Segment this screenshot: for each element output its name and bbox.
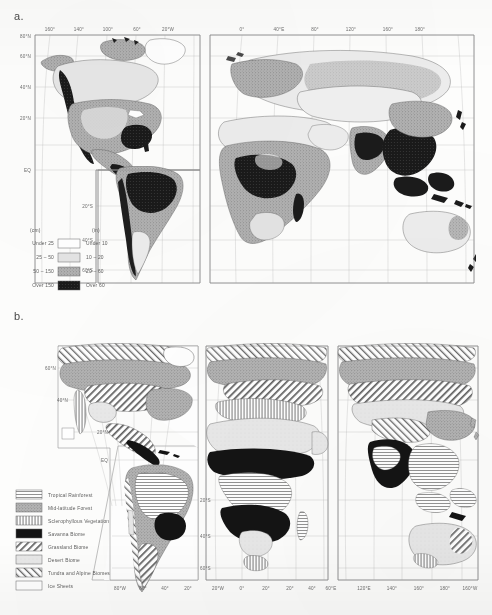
legend-swatch — [58, 253, 80, 262]
legend-swatch — [58, 239, 80, 248]
legend-imperial-label: 10 – 20 — [86, 255, 104, 260]
map-b-figure: 60°N 40°N 20°N EQ 20°S 40°S 60°S 80°W 60… — [0, 328, 492, 610]
lat-label: 20°N — [20, 116, 31, 121]
lon-label: 80°W — [114, 586, 127, 591]
lon-label: 20°W — [212, 586, 225, 591]
lon-label: 60°E — [326, 586, 337, 591]
lon-label: 160° — [383, 27, 393, 32]
lon-label: 120° — [346, 27, 356, 32]
map-b-svg: 60°N 40°N 20°N EQ 20°S 40°S 60°S 80°W 60… — [0, 328, 492, 610]
legend-label: Tropical Rainforest — [48, 493, 93, 498]
legend-metric-label: Under 25 — [32, 241, 54, 246]
legend-row: Tropical Rainforest — [16, 490, 93, 499]
map-b-inset-box — [62, 428, 74, 439]
map-a-figure: 160° 140° 100° 60° 20°W 0° 40°E 80° 120°… — [0, 18, 492, 308]
lon-label: 60° — [133, 27, 141, 32]
lon-label: 40°E — [274, 27, 285, 32]
legend-row: 50 – 150 20 – 60 — [33, 267, 103, 276]
legend-label: Mid-latitude Forest — [48, 506, 93, 511]
legend-row: Under 25 Under 10 — [32, 239, 108, 248]
legend-label: Grassland Biome — [48, 545, 89, 550]
lon-label: 180° — [440, 586, 450, 591]
map-a-lat-labels-south: 20°S 40°S 60°S — [82, 204, 93, 273]
legend-row: Savanna Biome — [16, 529, 85, 538]
lat-label: 20°S — [82, 204, 93, 209]
map-b-legend: Tropical Rainforest Mid-latitude Forest … — [16, 490, 110, 590]
legend-label: Tundra and Alpine Biomes — [48, 571, 110, 576]
lon-label: 40° — [161, 586, 169, 591]
legend-metric-label: Over 150 — [32, 283, 54, 288]
map-b-western-lobe — [58, 344, 198, 593]
legend-label: Sclerophyllous Vegetation — [48, 519, 109, 524]
map-a-svg: 160° 140° 100° 60° 20°W 0° 40°E 80° 120°… — [0, 18, 492, 308]
legend-swatch — [16, 503, 42, 512]
lon-label: 140° — [74, 27, 84, 32]
legend-swatch — [16, 555, 42, 564]
lon-label: 20° — [184, 586, 192, 591]
legend-swatch — [16, 516, 42, 525]
lon-label: 180° — [415, 27, 425, 32]
lat-label: 60°N — [20, 54, 31, 59]
lat-label: EQ — [24, 168, 31, 173]
legend-label: Savanna Biome — [48, 532, 85, 537]
legend-label: Desert Biome — [48, 558, 80, 563]
lon-label: 160° — [414, 586, 424, 591]
lat-label: 40°S — [200, 534, 211, 539]
figure-page: a. — [0, 0, 492, 615]
legend-label: Ice Sheets — [48, 584, 73, 589]
lat-label: 40°N — [57, 398, 68, 403]
lat-label: 60°N — [45, 366, 56, 371]
lon-label: 0° — [240, 586, 245, 591]
map-a-lon-labels-east: 0° 40°E 80° 120° 160° 180° — [240, 27, 426, 32]
legend-swatch — [16, 568, 42, 577]
lon-label: 140° — [387, 586, 397, 591]
lon-label: 20° — [286, 586, 294, 591]
legend-imperial-label: Under 10 — [86, 241, 108, 246]
lon-label: 40° — [308, 586, 316, 591]
legend-swatch — [16, 490, 42, 499]
lon-label: 20°W — [162, 27, 175, 32]
lon-label: 20° — [262, 586, 270, 591]
lon-label: 60° — [139, 586, 147, 591]
legend-header-imperial: (in) — [92, 228, 100, 233]
legend-row: Sclerophyllous Vegetation — [16, 516, 109, 525]
map-a-south-america-lobe — [98, 166, 200, 283]
lon-label: 80° — [311, 27, 319, 32]
legend-row: Desert Biome — [16, 555, 80, 564]
legend-row: Grassland Biome — [16, 542, 89, 551]
equator-label: EQ — [101, 458, 108, 463]
lon-label: 160°W — [463, 586, 478, 591]
legend-swatch — [58, 267, 80, 276]
lat-label: 40°N — [20, 85, 31, 90]
map-b-lat-labels-south: 20°S 40°S 60°S — [200, 498, 211, 571]
legend-swatch — [16, 581, 42, 590]
legend-row: 25 – 50 10 – 20 — [36, 253, 104, 262]
legend-swatch — [16, 542, 42, 551]
map-b-eastern-lobe — [338, 344, 479, 581]
legend-row: Ice Sheets — [16, 581, 73, 590]
legend-swatch — [58, 281, 80, 290]
lat-label: 60°S — [200, 566, 211, 571]
legend-row: Tundra and Alpine Biomes — [16, 568, 110, 577]
lon-label: 120°E — [357, 586, 371, 591]
legend-row: Over 150 Over 60 — [32, 281, 105, 290]
map-a-lat-labels-left: 80°N 60°N 40°N 20°N EQ — [20, 34, 31, 173]
legend-header-metric: (cm) — [30, 228, 41, 233]
legend-metric-label: 50 – 150 — [33, 269, 54, 274]
lat-label: 80°N — [20, 34, 31, 39]
legend-metric-label: 25 – 50 — [36, 255, 54, 260]
map-b-central-lobe — [206, 344, 328, 581]
map-a-lon-labels-west: 160° 140° 100° 60° 20°W — [45, 27, 175, 32]
map-a-eastern-lobe — [210, 35, 480, 283]
lon-label: 100° — [103, 27, 113, 32]
lat-label: 20°N — [97, 430, 108, 435]
lat-label: 20°S — [200, 498, 211, 503]
lon-label: 160° — [45, 27, 55, 32]
map-b-lon-labels-bottom: 80°W 60° 40° 20° 20°W 0° 20° 20° 40° 60°… — [114, 586, 478, 591]
panel-b-label: b. — [14, 310, 24, 322]
legend-swatch — [16, 529, 42, 538]
legend-imperial-label: 20 – 60 — [86, 269, 104, 274]
lon-label: 0° — [240, 27, 245, 32]
legend-imperial-label: Over 60 — [86, 283, 105, 288]
legend-row: Mid-latitude Forest — [16, 503, 93, 512]
